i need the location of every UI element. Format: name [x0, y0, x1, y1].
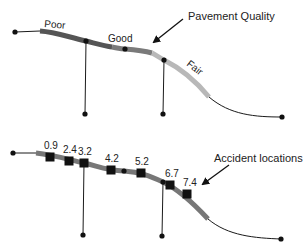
accident-label: 6.7 — [165, 168, 179, 179]
accident-marker — [137, 169, 146, 178]
side-road — [85, 41, 86, 114]
accident-label: 2.4 — [63, 144, 77, 155]
road-node — [278, 236, 283, 241]
accident-label: 7.4 — [183, 177, 197, 188]
road-node — [160, 111, 165, 116]
accident-marker — [183, 190, 192, 199]
accident-label: 3.2 — [78, 146, 92, 157]
side-road — [83, 163, 84, 235]
road-node — [279, 114, 284, 119]
road-node — [80, 232, 85, 237]
accident-marker — [80, 159, 89, 168]
pavement-quality-arrow — [154, 19, 183, 42]
poor-segment — [40, 31, 112, 47]
road-node — [122, 46, 127, 51]
accident-label: 0.9 — [44, 140, 58, 151]
accident-marker — [46, 153, 55, 162]
accident-marker — [166, 181, 175, 190]
accident-marker — [65, 157, 74, 166]
accident-label: 4.2 — [105, 153, 119, 164]
pavement-quality-callout: Pavement Quality — [188, 10, 275, 22]
road-node — [121, 168, 126, 173]
road-node — [160, 179, 165, 184]
road-node — [10, 150, 15, 155]
road-network-diagram: Poor Good Fair Pavement Quality 0.9 2.4 — [0, 0, 308, 246]
good-segment — [112, 47, 152, 53]
side-road — [163, 60, 164, 114]
accident-locations-panel: 0.9 2.4 3.2 4.2 5.2 6.7 7.4 Accident loc… — [10, 140, 303, 242]
fair-segment — [152, 53, 209, 97]
quality-label-poor: Poor — [44, 18, 67, 31]
road-node — [159, 233, 164, 238]
road-centerline — [15, 31, 282, 117]
road-node — [82, 111, 87, 116]
side-road — [162, 182, 163, 236]
accident-locations-arrow — [203, 165, 229, 184]
road-node — [12, 29, 17, 34]
accident-label: 5.2 — [135, 156, 149, 167]
accident-marker — [107, 166, 116, 175]
road-node — [161, 57, 166, 62]
pavement-quality-panel: Poor Good Fair Pavement Quality — [12, 10, 284, 120]
road-node — [83, 38, 88, 43]
accident-locations-callout: Accident locations — [214, 152, 303, 164]
quality-label-good: Good — [108, 33, 132, 44]
